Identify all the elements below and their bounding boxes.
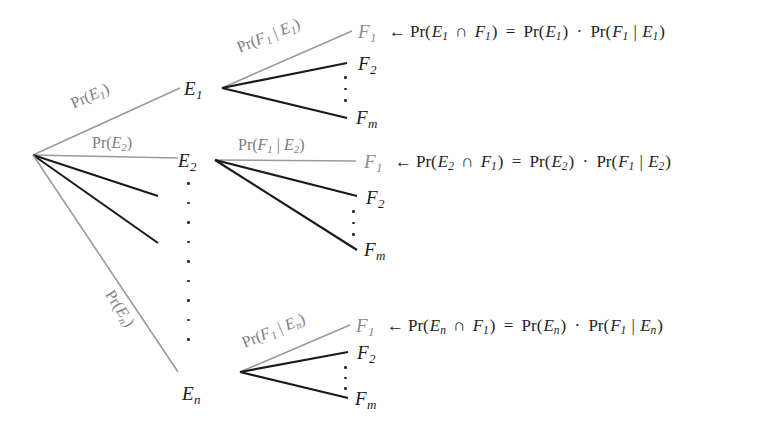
- edge-root-to-e2: [33, 155, 178, 158]
- probability-tree-figure: Pr(E1) Pr(E2) Pr(En) Pr(F1 | E1) Pr(F1 |…: [0, 0, 765, 435]
- edge-e2-to-f2: [215, 160, 357, 196]
- edge-e1-to-fm: [222, 88, 347, 118]
- node-f2-row2: F2: [366, 188, 385, 210]
- edge-e1-to-f2: [222, 63, 347, 88]
- node-fm-row2: Fm: [364, 240, 386, 262]
- edge-e2-to-f1: [215, 160, 356, 161]
- edge-label-pr-f1-given-e2: Pr(F1 | E2): [238, 137, 305, 155]
- node-e2: E2: [178, 151, 197, 173]
- node-f1-row1: F1: [358, 22, 377, 44]
- equation-row-2: ←Pr(E2 ∩ F1) = Pr(E2) · Pr(F1 | E2): [392, 153, 672, 173]
- edge-e2-to-fm: [215, 160, 357, 250]
- vertical-dots-e-nodes: [187, 182, 190, 341]
- tree-edges: [0, 0, 765, 435]
- edge-label-pr-e2: Pr(E2): [92, 135, 132, 153]
- node-f2-row1: F2: [358, 54, 377, 76]
- vertical-dots-row1-f: [344, 76, 347, 102]
- node-e1: E1: [184, 79, 203, 101]
- node-f2-row3: F2: [357, 343, 376, 365]
- equation-row-3: ←Pr(En ∩ F1) = Pr(En) · Pr(F1 | En): [384, 317, 664, 337]
- equation-row-1: ←Pr(E1 ∩ F1) = Pr(E1) · Pr(F1 | E1): [386, 23, 666, 43]
- edge-root-to-en: [33, 155, 178, 372]
- vertical-dots-row3-f: [344, 366, 347, 390]
- node-fm-row3: Fm: [355, 389, 377, 411]
- node-f1-row2: F1: [364, 152, 383, 174]
- edge-root-stub-2: [33, 155, 158, 243]
- node-en: En: [182, 384, 201, 406]
- node-fm-row1: Fm: [356, 108, 378, 130]
- node-f1-row3: F1: [356, 316, 375, 338]
- edge-en-to-f2: [240, 352, 348, 372]
- edge-root-stub-1: [33, 155, 158, 196]
- vertical-dots-row2-f: [352, 210, 355, 236]
- edge-en-to-fm: [240, 372, 348, 398]
